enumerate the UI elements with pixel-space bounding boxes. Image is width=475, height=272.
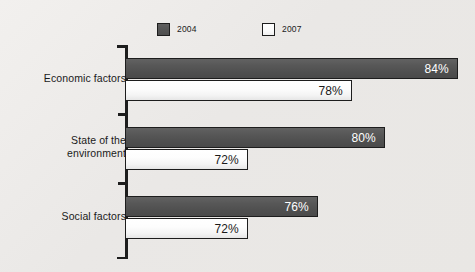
- axis-tick-1: [118, 113, 125, 116]
- bar-value-label: 84%: [424, 62, 449, 76]
- axis-tick-2: [118, 182, 125, 185]
- axis-cap-top: [117, 45, 125, 48]
- axis-cap-bottom: [117, 257, 125, 260]
- bar-value-label: 72%: [214, 153, 239, 167]
- bar-state-of-the-environment-2004: 80%: [125, 127, 385, 148]
- bar-value-label: 76%: [284, 200, 309, 214]
- bar-chart: 2004 2007 Economic factors 84% 78% State…: [0, 0, 475, 272]
- bar-social-factors-2007: 72%: [125, 218, 248, 239]
- plot-area: Economic factors 84% 78% State of the en…: [0, 0, 475, 272]
- category-label-state-of-the-environment: State of the environment: [67, 134, 126, 160]
- bar-economic-factors-2007: 78%: [125, 80, 352, 101]
- bar-value-label: 78%: [318, 84, 343, 98]
- bar-value-label: 80%: [351, 131, 376, 145]
- bar-economic-factors-2004: 84%: [125, 58, 458, 79]
- bar-value-label: 72%: [214, 222, 239, 236]
- bar-state-of-the-environment-2007: 72%: [125, 149, 248, 170]
- bar-social-factors-2004: 76%: [125, 196, 318, 217]
- category-label-economic-factors: Economic factors: [44, 72, 126, 85]
- category-label-social-factors: Social factors: [62, 210, 126, 223]
